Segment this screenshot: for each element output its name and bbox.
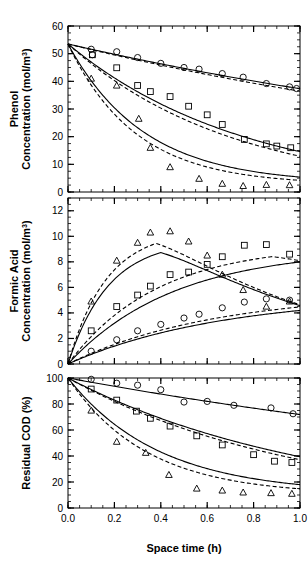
marker-circle — [241, 299, 247, 305]
marker-square — [272, 458, 278, 464]
panel-residual_cod: 0.00.20.40.60.81.0020406080100 — [46, 373, 307, 525]
panel-formic_acid: 024681012 — [52, 198, 300, 370]
marker-square — [147, 415, 153, 421]
panel-phenol: 0102030405060 — [52, 21, 300, 198]
marker-square — [167, 272, 173, 278]
marker-triangle — [193, 485, 200, 491]
marker-circle — [88, 348, 94, 354]
y-tick-label: 0 — [57, 359, 63, 370]
model-curve-circle-solid — [68, 310, 300, 364]
x-tick-label: 0.4 — [154, 513, 168, 524]
marker-triangle — [268, 490, 275, 496]
series-circle-data — [88, 296, 293, 355]
model-curve-circle-dashed — [68, 44, 300, 91]
marker-triangle — [286, 182, 293, 188]
y-tick-label: 20 — [52, 131, 64, 142]
marker-square — [251, 452, 257, 458]
y-tick-label: 40 — [52, 76, 64, 87]
y-tick-label: 10 — [52, 231, 64, 242]
marker-triangle — [185, 238, 192, 244]
marker-triangle — [135, 115, 142, 121]
figure-root: 01020304050600246810120.00.20.40.60.81.0… — [0, 0, 308, 576]
model-curve-square-solid — [68, 262, 300, 364]
marker-triangle — [219, 180, 226, 186]
x-axis-title: Space time (h) — [146, 542, 222, 554]
y-tick-label: 10 — [52, 159, 64, 170]
y-tick-label: 0 — [57, 503, 63, 514]
marker-triangle — [167, 228, 174, 234]
marker-square — [167, 94, 173, 100]
y-tick-label: 6 — [57, 282, 63, 293]
marker-square — [114, 65, 120, 71]
y-axis-title: Formic Acid — [8, 249, 20, 312]
y-tick-label: 50 — [52, 48, 64, 59]
x-tick-label: 0.6 — [200, 513, 214, 524]
marker-triangle — [134, 239, 141, 245]
y-tick-label: 60 — [52, 21, 64, 32]
model-curve-square-solid — [68, 44, 300, 152]
series-triangle-data — [88, 75, 293, 188]
x-tick-label: 0.8 — [247, 513, 261, 524]
y-axis-title: Concentration (mol/m3) — [20, 220, 32, 342]
marker-circle — [181, 399, 187, 405]
marker-triangle — [219, 487, 226, 493]
y-tick-label: 2 — [57, 333, 63, 344]
marker-square — [135, 292, 141, 298]
marker-triangle — [196, 175, 203, 181]
y-tick-label: 60 — [52, 425, 64, 436]
y-tick-label: 12 — [52, 205, 64, 216]
marker-circle — [196, 311, 202, 317]
marker-triangle — [240, 287, 247, 293]
marker-circle — [135, 54, 141, 60]
marker-square — [147, 283, 153, 289]
series-triangle-data — [88, 228, 293, 309]
marker-square — [186, 269, 192, 275]
marker-circle — [114, 337, 120, 343]
marker-triangle — [113, 82, 120, 88]
model-curve-square-dashed — [68, 378, 300, 460]
marker-circle — [135, 382, 141, 388]
y-axis-title: Phenol — [8, 91, 20, 128]
y-tick-label: 100 — [46, 373, 63, 384]
marker-square — [219, 122, 225, 128]
y-tick-label: 40 — [52, 451, 64, 462]
marker-square — [147, 89, 153, 95]
marker-circle — [181, 315, 187, 321]
marker-triangle — [113, 438, 120, 444]
marker-triangle — [166, 471, 173, 477]
series-square-data — [89, 52, 293, 151]
marker-square — [114, 304, 120, 310]
y-tick-label: 8 — [57, 256, 63, 267]
marker-circle — [263, 296, 269, 302]
model-curve-circle-solid — [68, 44, 300, 89]
marker-square — [287, 251, 293, 257]
y-tick-label: 4 — [57, 307, 63, 318]
y-axis-title: Residual COD (%) — [20, 396, 32, 490]
x-tick-label: 0.2 — [107, 513, 121, 524]
marker-triangle — [289, 490, 296, 496]
marker-circle — [89, 52, 95, 58]
marker-square — [289, 460, 295, 466]
panel-frame-formic_acid — [68, 198, 300, 364]
marker-triangle — [263, 181, 270, 187]
y-tick-label: 0 — [57, 187, 63, 198]
marker-triangle — [147, 229, 154, 235]
x-tick-label: 1.0 — [293, 513, 307, 524]
marker-triangle — [167, 164, 174, 170]
model-curve-square-solid — [68, 378, 300, 457]
panel-frame-phenol — [68, 26, 300, 192]
marker-circle — [114, 49, 120, 55]
marker-square — [135, 83, 141, 89]
x-tick-label: 0.0 — [61, 513, 75, 524]
marker-square — [194, 433, 200, 439]
marker-circle — [135, 328, 141, 334]
marker-triangle — [113, 257, 120, 263]
y-tick-label: 80 — [52, 399, 64, 410]
y-axis-title: Concentration (mol/m3) — [20, 48, 32, 170]
marker-square — [204, 112, 210, 118]
marker-square — [263, 242, 269, 248]
marker-square — [219, 442, 225, 448]
marker-triangle — [204, 252, 211, 258]
three-panel-figure: 01020304050600246810120.00.20.40.60.81.0… — [0, 0, 308, 576]
marker-triangle — [263, 303, 270, 309]
